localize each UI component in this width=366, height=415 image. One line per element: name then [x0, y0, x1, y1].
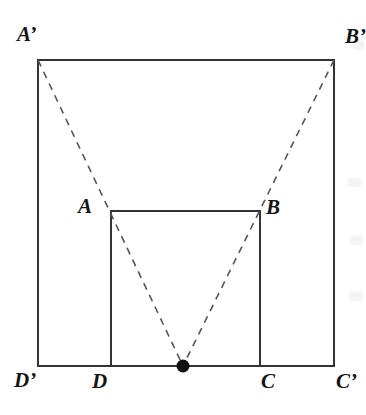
vertex-label-b: B	[266, 197, 280, 218]
vertex-label-a: A	[78, 196, 92, 217]
vertex-label-c-prime: C’	[336, 371, 357, 392]
vertex-label-d: D	[92, 371, 107, 392]
geometry-figure: A’ B’ A B D’ D C C’	[0, 0, 366, 415]
vertex-label-a-prime: A’	[17, 24, 36, 45]
vertex-label-b-prime: B’	[345, 26, 366, 47]
dashed-line-b-prime-to-apex	[183, 60, 334, 366]
inner-square	[111, 211, 260, 366]
apex-point-dot	[177, 360, 190, 373]
vertex-label-d-prime: D’	[14, 370, 36, 391]
vertex-label-c: C	[261, 371, 275, 392]
figure-canvas	[0, 0, 366, 415]
